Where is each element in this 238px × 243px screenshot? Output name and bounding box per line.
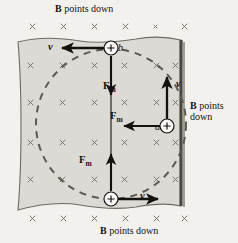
caption-top-bold: B [55, 3, 62, 14]
force-label-right: Fm [110, 110, 123, 124]
force-label-bottom: Fm [79, 154, 92, 168]
force-label-bottom-sub: m [85, 159, 91, 168]
caption-bottom-text: points down [107, 225, 159, 236]
caption-right-bold: B [190, 100, 197, 111]
caption-top: B points down [55, 4, 113, 15]
force-label-top-sub: m [109, 85, 115, 94]
force-label-right-sub: m [116, 115, 122, 124]
velocity-label-bottom: v [140, 190, 145, 201]
caption-right: B pointsdown [190, 101, 224, 123]
velocity-label-right: v [176, 78, 181, 89]
caption-bottom: B points down [100, 226, 158, 237]
point-label-b: b [118, 43, 123, 54]
charge-bottom [104, 192, 118, 206]
caption-bottom-bold: B [100, 225, 107, 236]
caption-top-text: points down [62, 3, 114, 14]
force-label-top: Fm [103, 80, 116, 94]
caption-right-text2: down [190, 111, 212, 122]
point-label-a: a [155, 122, 160, 133]
caption-right-text: points [197, 100, 224, 111]
figure-canvas: B points down B pointsdown B points down… [0, 0, 238, 243]
charge-b [104, 41, 118, 55]
charge-a [160, 119, 174, 133]
velocity-label-top: v [48, 41, 53, 52]
